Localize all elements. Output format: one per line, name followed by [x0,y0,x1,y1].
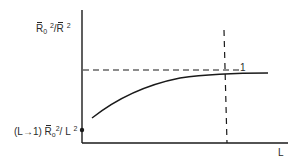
start-point-dot [80,128,84,132]
curve [92,73,268,118]
y-axis-label: R0 2/R 2 [36,20,71,38]
x-axis-label: L [278,147,284,159]
vertical-dashed-line [224,30,227,143]
y-start-annotation: (L→1) Ro2/ L 2 [14,123,77,141]
asymptote-label: 1 [240,62,246,74]
